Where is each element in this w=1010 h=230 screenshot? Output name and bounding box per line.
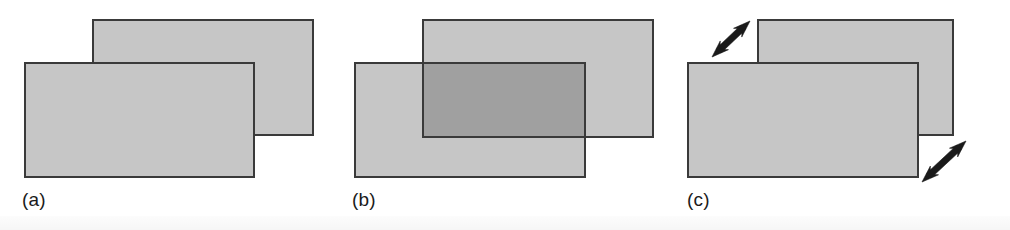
separation-arrow-upper-left bbox=[712, 21, 750, 57]
panel-c-label: (c) bbox=[687, 190, 710, 209]
panel-b-overlap-region bbox=[423, 63, 585, 137]
arrow-shaft bbox=[927, 145, 962, 178]
panel-b-graphic bbox=[340, 0, 670, 230]
panel-a: (a) bbox=[0, 0, 340, 230]
front-rectangle-shape bbox=[688, 63, 918, 177]
arrow-shaft bbox=[717, 25, 746, 53]
panel-a-front-rectangle bbox=[25, 63, 254, 177]
panel-b: (b) bbox=[340, 0, 670, 230]
panel-c-front-rectangle bbox=[688, 63, 918, 177]
separation-arrow-lower-right bbox=[922, 141, 966, 182]
front-rectangle-shape bbox=[25, 63, 254, 177]
overlap-region-shape bbox=[423, 63, 585, 137]
panel-a-label: (a) bbox=[22, 190, 46, 209]
panel-b-label: (b) bbox=[352, 190, 376, 209]
panel-c: (c) bbox=[670, 0, 1010, 230]
figure-container: (a) (b) bbox=[0, 0, 1010, 230]
panel-c-graphic bbox=[670, 0, 1010, 230]
panel-a-graphic bbox=[0, 0, 340, 230]
